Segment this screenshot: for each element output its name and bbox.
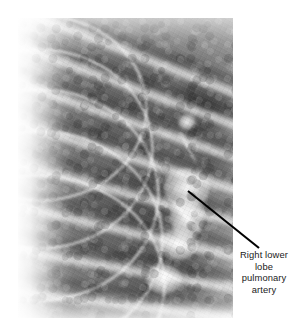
annotation-line-1: Right lower [228,249,300,261]
left-margin-fade [18,18,74,318]
chest-radiograph-image [18,18,233,318]
figure-container: Right lower lobe pulmonary artery [0,0,301,333]
annotation-line-4: artery [228,284,300,296]
annotation-line-3: pulmonary [228,272,300,284]
annotation-label-right-lower-lobe-pulmonary-artery: Right lower lobe pulmonary artery [228,249,300,295]
annotation-line-2: lobe [228,261,300,273]
bottom-margin-fade [18,292,233,318]
top-margin-fade [18,18,233,60]
